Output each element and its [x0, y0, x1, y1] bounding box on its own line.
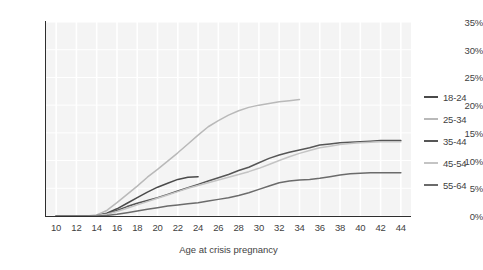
y-tick-label: 0%: [443, 211, 483, 222]
legend-item-45-54[interactable]: 45-54: [424, 152, 483, 174]
series-line-35-44: [56, 141, 401, 216]
legend-item-55-64[interactable]: 55-64: [424, 174, 483, 196]
plot-svg: [46, 22, 411, 216]
x-axis-title: Age at crisis pregnancy: [46, 244, 411, 255]
x-tick-label: 44: [389, 222, 413, 233]
legend-item-35-44[interactable]: 35-44: [424, 130, 483, 152]
legend-label: 25-34: [443, 114, 466, 125]
legend-label: 55-64: [443, 180, 466, 191]
legend-swatch-18-24: [424, 96, 438, 98]
legend: 18-2425-3435-4445-5455-64: [424, 86, 483, 196]
y-tick-label: 25%: [443, 72, 483, 83]
legend-swatch-25-34: [424, 118, 438, 120]
legend-label: 18-24: [443, 92, 466, 103]
y-tick-label: 35%: [443, 17, 483, 28]
x-axis-line: [45, 216, 411, 217]
y-axis-line: [45, 21, 46, 217]
legend-item-25-34[interactable]: 25-34: [424, 108, 483, 130]
series-line-45-54: [56, 142, 401, 216]
legend-swatch-35-44: [424, 140, 438, 142]
legend-swatch-45-54: [424, 162, 438, 164]
line-chart: 0%5%10%15%20%25%30%35% 10121416182022242…: [0, 0, 483, 270]
legend-swatch-55-64: [424, 184, 438, 186]
legend-label: 45-54: [443, 158, 466, 169]
series-line-18-24: [56, 177, 198, 216]
legend-label: 35-44: [443, 136, 466, 147]
plot-area: [46, 22, 411, 216]
legend-item-18-24[interactable]: 18-24: [424, 86, 483, 108]
y-tick-label: 30%: [443, 44, 483, 55]
